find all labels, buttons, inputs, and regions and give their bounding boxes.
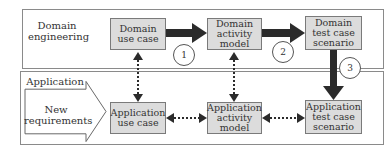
application-use-case-box: Applicationuse case (110, 102, 166, 134)
step-1-marker: 1 (173, 44, 195, 66)
label-line: requirements (24, 115, 88, 126)
box-line: use case (117, 34, 158, 44)
step-3-marker: 3 (339, 57, 361, 79)
new-requirements-label: New requirements (24, 104, 88, 126)
arrow-right-icon (199, 113, 207, 123)
arrow-up-icon (229, 52, 239, 60)
arrow-right-icon (297, 113, 305, 123)
arrow-left-icon (166, 113, 174, 123)
arrow-1-head-icon (192, 23, 207, 43)
step-2-marker: 2 (272, 41, 294, 63)
arrow-left-icon (262, 113, 270, 123)
domain-use-case-box: Domainuse case (110, 18, 166, 50)
arrow-down-icon (229, 94, 239, 102)
box-line: use case (111, 118, 166, 128)
arrow-down-icon (133, 94, 143, 102)
box-line: scenario (312, 38, 355, 48)
domain-test-case-scenario-box: Domaintest casescenario (305, 16, 362, 50)
application-test-case-scenario-box: Applicationtest casescenario (305, 100, 362, 134)
box-line: scenario (306, 122, 361, 132)
box-line: model (207, 123, 262, 133)
arrow-2-head-icon (290, 23, 305, 43)
arrow-up-icon (133, 52, 143, 60)
box-line: model (216, 39, 253, 49)
label-line: New (24, 104, 88, 115)
domain-activity-model-box: Domainactivitymodel (207, 18, 262, 50)
application-activity-model-box: Applicationactivitymodel (207, 102, 262, 134)
arrow-3-head-icon (323, 86, 344, 100)
